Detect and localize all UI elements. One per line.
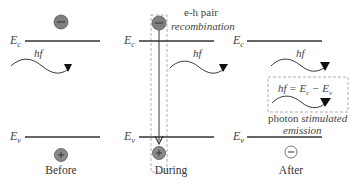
electron-icon-before bbox=[54, 15, 68, 29]
ev-label-before: Ev bbox=[10, 129, 21, 145]
eh-pair-label: e-h pair bbox=[184, 6, 218, 18]
photon-wave-icon-after-2 bbox=[272, 96, 331, 108]
photon-wave-icon-before bbox=[11, 59, 72, 73]
panel-label-during: During bbox=[141, 164, 201, 176]
ec-label-after: Ec bbox=[233, 33, 244, 49]
hf-label-during: hf bbox=[193, 47, 202, 59]
recombination-label: recombination bbox=[171, 20, 235, 32]
panel-label-after: After bbox=[261, 164, 321, 176]
recombination-arrow-icon bbox=[155, 30, 163, 144]
electron-icon-after bbox=[285, 146, 297, 158]
electron-icon-during bbox=[152, 16, 166, 30]
hole-icon-before bbox=[55, 149, 68, 162]
energy-equation: hf = Ec − Ev bbox=[278, 82, 332, 97]
hole-icon-during bbox=[153, 147, 166, 160]
photon-wave-icon-after-1 bbox=[271, 59, 330, 71]
hf-label-before: hf bbox=[34, 47, 43, 59]
hf-label-after: hf bbox=[296, 47, 305, 59]
stimulated-emission-caption: photon stimulated bbox=[268, 112, 347, 124]
emission-caption: emission bbox=[283, 124, 322, 136]
panel-label-before: Before bbox=[31, 164, 91, 176]
photon-wave-icon-during bbox=[170, 61, 228, 73]
ev-label-after: Ev bbox=[233, 129, 244, 145]
ec-label-during: Ec bbox=[124, 33, 135, 49]
ev-label-during: Ev bbox=[124, 129, 135, 145]
ec-label-before: Ec bbox=[10, 33, 21, 49]
